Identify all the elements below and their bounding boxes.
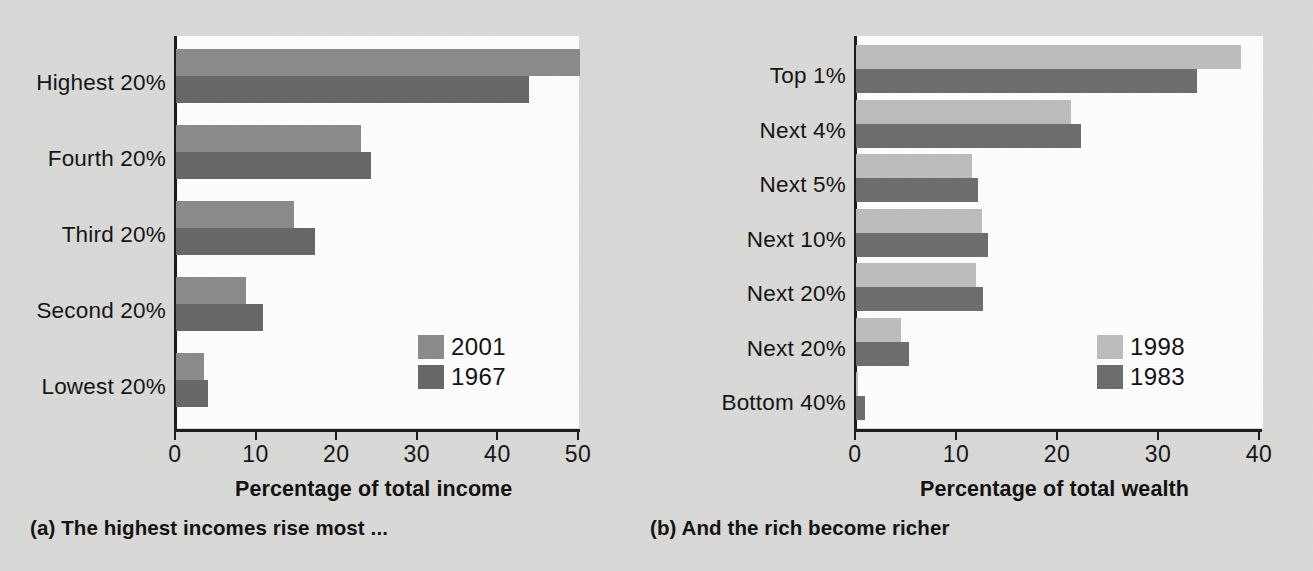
legend-b: 19981983 — [1097, 332, 1185, 392]
x-tick — [174, 430, 176, 440]
category-label: Next 20% — [586, 281, 846, 307]
chart-panel-a: 01020304050 Highest 20%Fourth 20%Third 2… — [0, 0, 660, 571]
x-tick-label: 30 — [1128, 441, 1188, 468]
category-label: Next 5% — [586, 172, 846, 198]
bar — [856, 69, 1197, 93]
bar — [176, 228, 315, 255]
legend-swatch — [1097, 335, 1123, 359]
caption-b: (b) And the rich become richer — [650, 516, 950, 540]
legend-item: 1967 — [418, 362, 506, 392]
legend-item: 1983 — [1097, 362, 1185, 392]
legend-label: 2001 — [451, 333, 506, 361]
x-tick-label: 10 — [226, 441, 286, 468]
figure-page: 01020304050 Highest 20%Fourth 20%Third 2… — [0, 0, 1313, 571]
legend-item: 2001 — [418, 332, 506, 362]
bar — [856, 342, 909, 366]
x-axis-line-a — [174, 429, 580, 432]
x-tick-label: 50 — [548, 441, 608, 468]
x-tick-label: 20 — [1027, 441, 1087, 468]
bar — [856, 263, 976, 287]
x-tick-label: 40 — [1229, 441, 1289, 468]
bar — [856, 100, 1071, 124]
category-label: Second 20% — [0, 298, 166, 324]
x-tick — [1056, 430, 1058, 440]
legend-a: 20011967 — [418, 332, 506, 392]
x-tick — [335, 430, 337, 440]
bar — [856, 124, 1081, 148]
x-tick-label: 40 — [467, 441, 527, 468]
x-axis-title-b: Percentage of total wealth — [920, 477, 1189, 502]
bar — [856, 233, 988, 257]
legend-label: 1998 — [1130, 333, 1185, 361]
bar — [856, 209, 982, 233]
bar — [856, 154, 972, 178]
bar — [176, 277, 246, 304]
legend-label: 1967 — [451, 363, 506, 391]
bar — [856, 45, 1241, 69]
x-axis-title-a: Percentage of total income — [235, 477, 512, 502]
legend-label: 1983 — [1130, 363, 1185, 391]
bar — [856, 396, 865, 420]
caption-a: (a) The highest incomes rise most ... — [30, 516, 388, 540]
category-label: Fourth 20% — [0, 146, 166, 172]
x-tick — [1157, 430, 1159, 440]
category-label: Next 4% — [586, 118, 846, 144]
bar — [176, 125, 361, 152]
category-label: Top 1% — [586, 63, 846, 89]
x-tick — [1258, 430, 1260, 440]
bar — [176, 353, 204, 380]
category-label: Lowest 20% — [0, 374, 166, 400]
x-tick — [416, 430, 418, 440]
legend-swatch — [1097, 365, 1123, 389]
x-tick-label: 20 — [306, 441, 366, 468]
x-tick-label: 0 — [825, 441, 885, 468]
x-tick — [255, 430, 257, 440]
x-tick — [955, 430, 957, 440]
legend-item: 1998 — [1097, 332, 1185, 362]
bar — [176, 304, 263, 331]
x-tick-label: 30 — [387, 441, 447, 468]
bar — [856, 178, 978, 202]
bar — [856, 372, 858, 396]
category-label: Next 20% — [586, 336, 846, 362]
x-tick — [496, 430, 498, 440]
legend-swatch — [418, 365, 444, 389]
x-tick — [577, 430, 579, 440]
bar — [176, 76, 529, 103]
bar — [176, 49, 580, 76]
x-tick-label: 0 — [145, 441, 205, 468]
bar — [176, 380, 208, 407]
category-label: Third 20% — [0, 222, 166, 248]
x-axis-line-b — [854, 429, 1262, 432]
category-label: Next 10% — [586, 227, 846, 253]
bar — [176, 201, 294, 228]
category-label: Bottom 40% — [586, 390, 846, 416]
category-label: Highest 20% — [0, 70, 166, 96]
bar — [856, 287, 983, 311]
legend-swatch — [418, 335, 444, 359]
bar — [176, 152, 371, 179]
x-tick — [854, 430, 856, 440]
bar — [856, 318, 901, 342]
x-tick-label: 10 — [926, 441, 986, 468]
